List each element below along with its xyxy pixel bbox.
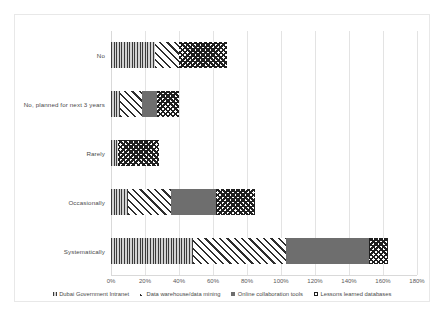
category-row: No bbox=[111, 31, 417, 80]
bar-segment[interactable] bbox=[193, 238, 287, 264]
chart-legend: Dubai Government Intranet Data warehouse… bbox=[15, 291, 429, 297]
category-row: No, planned for next 3 years bbox=[111, 80, 417, 129]
x-axis-tick-label: 100% bbox=[273, 278, 288, 284]
bar-segment[interactable] bbox=[118, 140, 159, 166]
bar-segment[interactable] bbox=[142, 91, 157, 117]
x-axis-tick-label: 120% bbox=[307, 278, 322, 284]
x-axis-line bbox=[111, 275, 417, 276]
category-label: No, planned for next 3 years bbox=[24, 101, 105, 108]
legend-label-1: Data warehouse/data mining bbox=[147, 291, 221, 297]
category-label: Occasionally bbox=[68, 198, 105, 205]
category-row: Occasionally bbox=[111, 177, 417, 226]
bar-segment[interactable] bbox=[111, 91, 120, 117]
x-axis-tick-label: 0% bbox=[107, 278, 116, 284]
bar-segment[interactable] bbox=[111, 140, 118, 166]
category-row: Rarely bbox=[111, 129, 417, 178]
bar-segment[interactable] bbox=[157, 91, 179, 117]
plot-area: NoNo, planned for next 3 yearsRarelyOcca… bbox=[111, 31, 417, 275]
x-axis-tick-label: 40% bbox=[173, 278, 185, 284]
legend-item-0[interactable]: Dubai Government Intranet bbox=[53, 291, 129, 297]
x-axis-tick-label: 80% bbox=[241, 278, 253, 284]
legend-swatch-icon-3 bbox=[314, 292, 318, 296]
legend-swatch-icon-1 bbox=[140, 292, 144, 296]
stacked-bar[interactable] bbox=[111, 42, 227, 68]
bar-segment[interactable] bbox=[120, 91, 142, 117]
legend-label-0: Dubai Government Intranet bbox=[59, 291, 129, 297]
bar-segment[interactable] bbox=[179, 42, 227, 68]
stacked-bar[interactable] bbox=[111, 189, 255, 215]
bar-segment[interactable] bbox=[111, 42, 155, 68]
x-axis-tick-label: 20% bbox=[139, 278, 151, 284]
x-axis-tick-label: 180% bbox=[409, 278, 424, 284]
legend-swatch-icon-0 bbox=[53, 292, 57, 296]
category-label: No bbox=[97, 52, 105, 59]
stacked-bar[interactable] bbox=[111, 238, 388, 264]
bar-segment[interactable] bbox=[111, 189, 128, 215]
bar-segment[interactable] bbox=[171, 189, 217, 215]
legend-label-3: Lessons learned databases bbox=[320, 291, 391, 297]
category-row: Systematically bbox=[111, 226, 417, 275]
stacked-bar[interactable] bbox=[111, 91, 179, 117]
bar-segment[interactable] bbox=[216, 189, 255, 215]
x-axis-tick-label: 160% bbox=[375, 278, 390, 284]
stacked-bar[interactable] bbox=[111, 140, 159, 166]
bar-segment[interactable] bbox=[286, 238, 369, 264]
bar-segment[interactable] bbox=[369, 238, 388, 264]
x-axis-tick-label: 60% bbox=[207, 278, 219, 284]
legend-item-3[interactable]: Lessons learned databases bbox=[314, 291, 391, 297]
bar-segment[interactable] bbox=[155, 42, 179, 68]
bar-segment[interactable] bbox=[111, 238, 193, 264]
legend-label-2: Online collaboration tools bbox=[238, 291, 303, 297]
legend-swatch-icon-2 bbox=[231, 292, 235, 296]
legend-item-1[interactable]: Data warehouse/data mining bbox=[140, 291, 220, 297]
category-label: Systematically bbox=[64, 247, 105, 254]
chart-container: NoNo, planned for next 3 yearsRarelyOcca… bbox=[14, 14, 430, 302]
x-axis-tick-label: 140% bbox=[341, 278, 356, 284]
gridline-180 bbox=[417, 31, 418, 275]
bar-segment[interactable] bbox=[128, 189, 171, 215]
legend-item-2[interactable]: Online collaboration tools bbox=[231, 291, 303, 297]
category-label: Rarely bbox=[86, 149, 105, 156]
